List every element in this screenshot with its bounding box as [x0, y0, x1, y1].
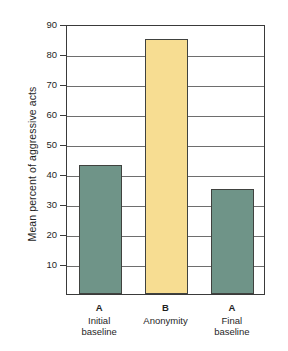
y-axis-tick-label: 10 — [27, 260, 57, 270]
y-axis-tick — [60, 265, 66, 266]
x-axis-category-label: AFinal baseline — [187, 302, 277, 338]
y-axis-tick — [60, 85, 66, 86]
plot-area — [66, 25, 265, 295]
y-axis-tick-label: 50 — [27, 140, 57, 150]
y-axis-tick-label: 90 — [27, 20, 57, 30]
y-axis-tick — [60, 235, 66, 236]
x-axis-category-key: A — [187, 302, 277, 314]
y-axis-tick — [60, 175, 66, 176]
x-axis-category-name: Final baseline — [187, 315, 277, 338]
y-axis-tick-label: 80 — [27, 50, 57, 60]
bars-group — [67, 26, 264, 294]
y-axis-tick — [60, 115, 66, 116]
bar — [145, 39, 188, 294]
y-axis-tick — [60, 25, 66, 26]
y-axis-tick — [60, 55, 66, 56]
y-axis-tick-label: 20 — [27, 230, 57, 240]
bar — [211, 189, 254, 294]
y-axis-tick-label: 40 — [27, 170, 57, 180]
y-axis-tick — [60, 205, 66, 206]
bar-chart: Mean percent of aggressive acts 90807060… — [0, 0, 288, 351]
y-axis-tick — [60, 145, 66, 146]
y-axis-tick-label: 70 — [27, 80, 57, 90]
bar — [79, 165, 122, 294]
y-axis-tick-label: 30 — [27, 200, 57, 210]
y-axis-tick-label: 60 — [27, 110, 57, 120]
